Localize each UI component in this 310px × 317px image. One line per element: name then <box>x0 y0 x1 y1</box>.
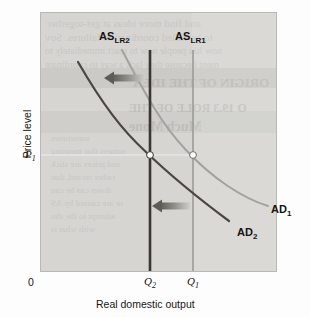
equilibrium-dot-2 <box>147 152 154 159</box>
ad1-label: AD1 <box>271 203 292 218</box>
ad1-curve <box>122 50 268 206</box>
ad2-label: AD2 <box>237 226 258 241</box>
as-lr1-label: ASLR1 <box>175 30 206 45</box>
x-tick-label-q2: Q2 <box>144 275 156 290</box>
x-axis-title: Real domestic output <box>96 298 195 310</box>
chart-overlay <box>0 0 310 317</box>
equilibrium-dot-1 <box>190 152 197 159</box>
y-tick-label-p1: P1 <box>25 148 36 163</box>
origin-label: 0 <box>28 276 34 288</box>
as-lr2-label: ASLR2 <box>99 30 130 45</box>
y-axis-title: Price level <box>21 89 33 179</box>
ad2-curve <box>78 62 229 221</box>
ad-shift-arrow <box>152 200 190 213</box>
figure-container: and find more ideas at get-togetherto be… <box>0 0 310 317</box>
x-tick-label-q1: Q1 <box>187 275 199 290</box>
